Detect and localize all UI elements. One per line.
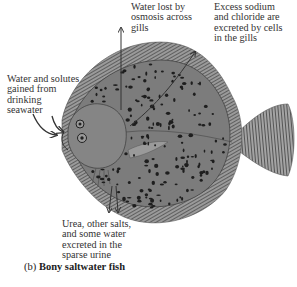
body-spot <box>222 151 225 154</box>
body-spot <box>191 156 194 158</box>
body-spot <box>141 136 145 138</box>
body-spot <box>173 76 176 78</box>
body-spot <box>154 144 156 146</box>
body-spot <box>223 143 227 146</box>
body-spot <box>125 85 127 87</box>
body-spot <box>91 100 94 103</box>
label-water-solutes-gained: Water and solutes gained from drinking s… <box>7 74 79 116</box>
body-spot <box>102 182 106 184</box>
body-spot <box>137 200 141 203</box>
body-spot <box>205 171 208 175</box>
body-spot <box>180 157 185 160</box>
body-spot <box>91 170 94 173</box>
body-spot <box>149 64 153 66</box>
body-spot <box>146 117 149 121</box>
body-spot <box>145 196 147 198</box>
body-spot <box>143 95 147 99</box>
body-spot <box>107 178 110 181</box>
body-spot <box>165 171 170 175</box>
body-spot <box>141 104 143 107</box>
body-spot <box>102 101 106 103</box>
body-spot <box>117 191 120 193</box>
body-spot <box>151 127 154 129</box>
body-spot <box>133 65 135 69</box>
body-spot <box>131 136 133 139</box>
body-spot <box>156 122 160 126</box>
body-spot <box>165 94 168 97</box>
body-spot <box>126 201 130 203</box>
body-spot <box>132 204 136 207</box>
body-spot <box>102 96 105 98</box>
body-spot <box>149 198 153 200</box>
body-spot <box>145 72 147 76</box>
body-spot <box>145 193 148 196</box>
body-spot <box>164 145 166 148</box>
body-spot <box>204 149 206 152</box>
body-spot <box>105 175 108 178</box>
body-spot <box>168 203 170 206</box>
body-spot <box>173 98 175 102</box>
body-spot <box>163 181 166 183</box>
body-spot <box>195 154 197 158</box>
body-spot <box>149 99 153 101</box>
body-spot <box>198 163 200 167</box>
body-spot <box>212 113 214 115</box>
body-spot <box>178 135 183 138</box>
figure-caption: (b) Bony saltwater fish <box>24 261 125 272</box>
body-spot <box>151 205 156 207</box>
label-urea-urine: Urea, other salts, and some water excret… <box>62 219 131 261</box>
body-spot <box>182 82 186 85</box>
body-spot <box>171 72 175 75</box>
body-spot <box>180 167 185 170</box>
body-spot <box>172 125 175 129</box>
body-spot <box>160 184 164 186</box>
body-spot <box>180 77 184 79</box>
body-spot <box>208 122 211 126</box>
body-spot <box>184 163 189 165</box>
body-spot <box>215 140 217 143</box>
body-spot <box>152 181 155 185</box>
body-spot <box>122 197 126 201</box>
body-spot <box>186 160 188 164</box>
body-spot <box>211 150 213 154</box>
body-spot <box>148 127 150 129</box>
body-spot <box>95 87 98 89</box>
arrow-drinking-2 <box>52 116 63 132</box>
body-spot <box>154 70 156 73</box>
body-spot <box>131 78 135 80</box>
body-spot <box>117 167 121 170</box>
body-spot <box>181 197 183 201</box>
body-spot <box>143 79 146 82</box>
body-spot <box>96 176 101 179</box>
body-spot <box>127 197 132 199</box>
label-excess-sodium-chloride: Excess sodium and chloride are excreted … <box>214 2 282 44</box>
body-spot <box>200 179 203 182</box>
body-spot <box>183 148 185 152</box>
body-spot <box>175 157 177 161</box>
body-spot <box>204 105 208 108</box>
body-spot <box>193 114 196 116</box>
body-spot <box>147 88 150 92</box>
caption-letter: (b) <box>24 261 36 272</box>
body-spot <box>222 137 224 140</box>
body-spot <box>186 189 189 192</box>
body-spot <box>193 93 196 97</box>
body-spot <box>198 112 201 114</box>
body-spot <box>188 109 190 112</box>
body-spot <box>198 124 201 126</box>
body-spot <box>133 154 135 157</box>
body-spot <box>140 189 144 193</box>
body-spot <box>181 142 183 144</box>
body-spot <box>96 93 98 97</box>
eye-lower <box>78 134 87 143</box>
body-spot <box>182 165 184 167</box>
body-spot <box>128 181 131 184</box>
body-spot <box>161 71 164 73</box>
body-spot <box>179 196 181 198</box>
body-spot <box>200 174 202 177</box>
body-spot <box>113 84 118 86</box>
body-spot <box>176 199 178 202</box>
body-spot <box>116 184 118 186</box>
body-spot <box>154 164 158 168</box>
body-spot <box>160 200 162 203</box>
